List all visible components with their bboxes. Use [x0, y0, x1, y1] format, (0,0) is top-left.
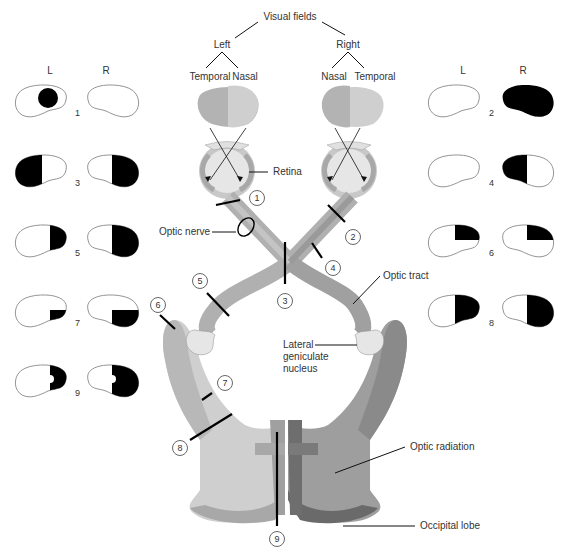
marker-7: 7	[218, 376, 233, 391]
svg-text:7: 7	[75, 318, 80, 328]
field-pair-8	[428, 290, 485, 330]
label-lgn-2: geniculate	[283, 351, 329, 362]
left-eye-visual-field	[198, 85, 259, 127]
right-field-panel: L R 2 4 6	[428, 65, 557, 330]
marker-8: 8	[173, 441, 188, 456]
svg-text:3: 3	[282, 296, 287, 306]
svg-text:8: 8	[177, 443, 182, 453]
field-pair-3	[12, 150, 66, 190]
marker-3: 3	[278, 294, 293, 309]
col-label-L: L	[47, 65, 53, 76]
marker-1: 1	[250, 191, 265, 206]
right-lgn	[355, 330, 384, 355]
label-lgn-3: nucleus	[283, 363, 317, 374]
field-pair-6	[428, 220, 485, 257]
label-optic-radiation: Optic radiation	[410, 441, 474, 452]
svg-text:3: 3	[75, 178, 80, 188]
label-right: Right	[336, 39, 360, 50]
svg-text:6: 6	[489, 248, 494, 258]
svg-text:4: 4	[489, 178, 494, 188]
left-optic-radiation	[163, 320, 285, 523]
svg-text:9: 9	[274, 534, 279, 544]
right-eye-visual-field	[322, 85, 384, 127]
svg-text:1: 1	[254, 193, 259, 203]
title-visual-fields: Visual fields	[263, 11, 316, 22]
field-pair-2	[428, 85, 479, 117]
marker-2: 2	[346, 230, 361, 245]
svg-text:7: 7	[222, 378, 227, 388]
label-lgn-1: Lateral	[283, 339, 314, 350]
svg-text:8: 8	[489, 318, 494, 328]
label-optic-tract: Optic tract	[383, 270, 429, 281]
field-pair-4	[428, 155, 479, 187]
col-label-L-right: L	[460, 65, 466, 76]
left-eyeball	[199, 128, 255, 199]
label-left: Left	[214, 39, 231, 50]
label-left-nasal: Nasal	[232, 71, 258, 82]
svg-text:5: 5	[197, 276, 202, 286]
svg-text:2: 2	[350, 232, 355, 242]
label-right-nasal: Nasal	[321, 71, 347, 82]
left-field-panel: L R 1 3 5	[12, 65, 142, 400]
field-pair-7	[15, 295, 80, 330]
svg-text:6: 6	[155, 300, 160, 310]
marker-4: 4	[326, 261, 341, 276]
col-label-R: R	[102, 65, 109, 76]
field-pair-5	[15, 220, 80, 260]
field-pair-1	[15, 85, 66, 117]
label-left-temporal: Temporal	[189, 71, 230, 82]
label-right-temporal: Temporal	[354, 71, 395, 82]
svg-text:2: 2	[489, 108, 494, 118]
marker-6: 6	[151, 298, 166, 313]
svg-text:1: 1	[75, 108, 80, 118]
visual-pathway-diagram: Visual fields Left Right Temporal Nasal …	[0, 0, 568, 556]
title-tree: Visual fields Left Right Temporal Nasal …	[189, 11, 395, 82]
svg-text:5: 5	[75, 248, 80, 258]
label-retina: Retina	[273, 166, 302, 177]
left-lgn	[186, 330, 215, 355]
marker-9: 9	[270, 532, 285, 547]
right-eyeball	[321, 128, 377, 199]
col-label-R-right: R	[519, 65, 526, 76]
field-pair-9	[15, 360, 80, 400]
svg-text:9: 9	[75, 388, 80, 398]
label-occipital-lobe: Occipital lobe	[420, 520, 480, 531]
marker-5: 5	[193, 274, 208, 289]
label-optic-nerve: Optic nerve	[159, 226, 211, 237]
svg-text:4: 4	[330, 263, 335, 273]
